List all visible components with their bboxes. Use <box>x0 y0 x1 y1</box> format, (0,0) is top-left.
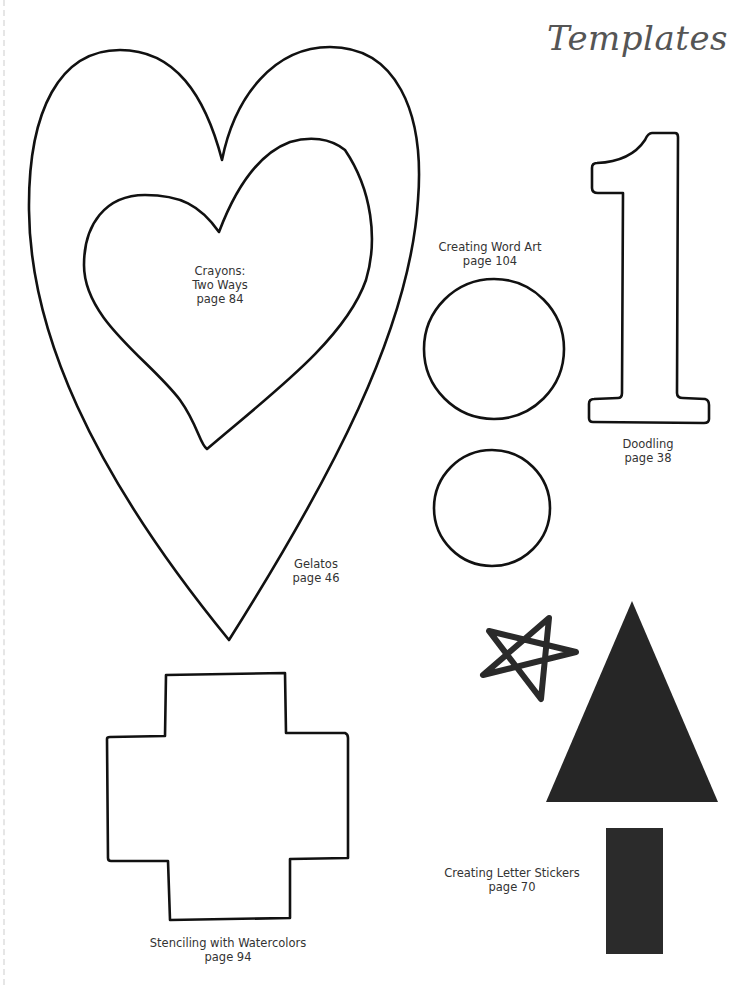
large-circle-template <box>424 279 564 419</box>
rectangle-template <box>606 828 663 954</box>
cross-template <box>107 673 348 920</box>
label-gelatos: Gelatos page 46 <box>292 557 339 585</box>
outer-heart-template <box>29 47 419 640</box>
triangle-template <box>546 601 718 802</box>
number-one-template <box>589 133 709 423</box>
template-shapes <box>0 0 750 985</box>
label-doodling: Doodling page 38 <box>622 437 673 465</box>
templates-page: Templates Crayons: Two Ways page 84 Gela… <box>0 0 750 985</box>
label-stenciling-with-watercolors: Stenciling with Watercolors page 94 <box>150 936 306 964</box>
label-creating-letter-stickers: Creating Letter Stickers page 70 <box>444 866 580 894</box>
label-creating-word-art: Creating Word Art page 104 <box>439 240 542 268</box>
label-crayons: Crayons: Two Ways page 84 <box>192 264 248 306</box>
small-circle-template <box>434 450 550 566</box>
star-template <box>483 618 576 699</box>
